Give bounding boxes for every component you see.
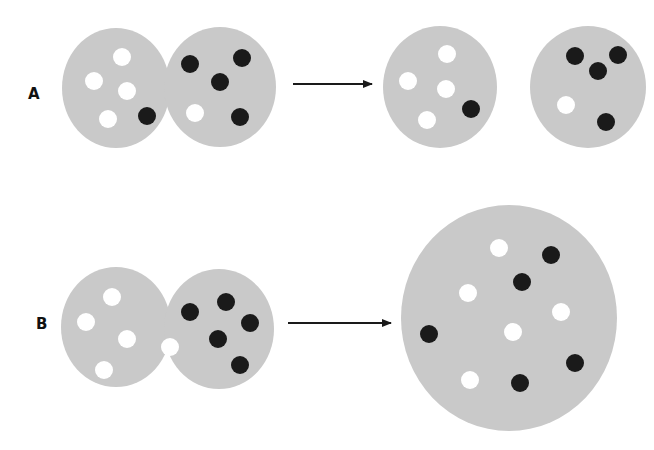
after-white-particle	[504, 323, 522, 341]
before-white-particle	[77, 313, 95, 331]
after-white-particle	[418, 111, 436, 129]
after-black-particle	[597, 113, 615, 131]
row-label-b: B	[36, 315, 47, 333]
before-white-particle	[113, 48, 131, 66]
before-black-particle	[233, 49, 251, 67]
after-black-particle	[420, 325, 438, 343]
before-white-particle	[103, 288, 121, 306]
after-black-particle	[513, 273, 531, 291]
after-black-particle	[609, 46, 627, 64]
before-black-particle	[138, 107, 156, 125]
before-white-particle	[118, 82, 136, 100]
before-black-particle	[231, 356, 249, 374]
row-label-a: A	[28, 85, 40, 103]
after-black-particle	[566, 47, 584, 65]
before-black-particle	[209, 330, 227, 348]
before-black-particle	[241, 314, 259, 332]
after-white-particle	[490, 239, 508, 257]
after-cell	[401, 205, 617, 431]
row-b	[61, 205, 617, 431]
after-cell	[530, 26, 646, 148]
before-white-particle	[186, 104, 204, 122]
after-white-particle	[552, 303, 570, 321]
after-white-particle	[459, 284, 477, 302]
before-cell	[61, 267, 171, 387]
after-white-particle	[557, 96, 575, 114]
after-white-particle	[438, 45, 456, 63]
before-cell	[164, 269, 274, 389]
before-black-particle	[181, 55, 199, 73]
after-black-particle	[462, 100, 480, 118]
after-black-particle	[566, 354, 584, 372]
cell-fusion-diagram	[0, 0, 654, 450]
before-white-particle	[118, 330, 136, 348]
after-white-particle	[437, 80, 455, 98]
after-black-particle	[542, 246, 560, 264]
before-black-particle	[211, 73, 229, 91]
before-white-particle	[85, 72, 103, 90]
after-black-particle	[589, 62, 607, 80]
before-cell	[62, 28, 170, 148]
after-white-particle	[461, 371, 479, 389]
row-a	[62, 26, 646, 148]
before-black-particle	[181, 303, 199, 321]
before-white-particle	[161, 338, 179, 356]
before-white-particle	[95, 361, 113, 379]
before-white-particle	[99, 110, 117, 128]
after-white-particle	[399, 72, 417, 90]
before-black-particle	[217, 293, 235, 311]
before-black-particle	[231, 108, 249, 126]
after-black-particle	[511, 374, 529, 392]
